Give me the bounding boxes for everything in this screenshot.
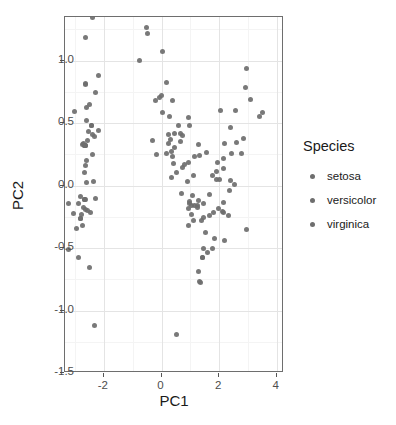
data-point xyxy=(248,97,253,102)
data-point xyxy=(179,191,184,196)
legend-label: virginica xyxy=(327,218,369,230)
data-point xyxy=(166,141,171,146)
grid-line xyxy=(75,17,76,371)
data-point xyxy=(91,179,96,184)
data-point xyxy=(196,269,201,274)
data-point xyxy=(211,210,216,215)
data-point xyxy=(153,98,158,103)
data-point xyxy=(221,166,226,171)
x-tick-label: 2 xyxy=(198,379,238,391)
y-tick-label: 0.0 xyxy=(58,178,74,190)
x-tick-label: -2 xyxy=(83,379,123,391)
data-point xyxy=(221,200,226,205)
data-point xyxy=(74,226,79,231)
data-point xyxy=(150,138,155,143)
data-point xyxy=(197,279,202,284)
y-axis-title: PC2 xyxy=(8,0,28,390)
data-point xyxy=(182,162,187,167)
data-point xyxy=(90,152,95,157)
data-point xyxy=(257,114,262,119)
legend-key xyxy=(303,198,321,203)
legend: Species setosaversicolorvirginica xyxy=(303,138,393,236)
data-point xyxy=(221,156,226,161)
data-point xyxy=(190,193,195,198)
data-point xyxy=(214,169,219,174)
data-point xyxy=(78,216,83,221)
data-point xyxy=(201,201,206,206)
data-point xyxy=(178,139,183,144)
y-tick-label: -1.0 xyxy=(54,303,74,315)
data-point xyxy=(229,151,234,156)
data-point xyxy=(84,158,89,163)
data-point xyxy=(174,170,179,175)
data-point xyxy=(83,35,88,40)
data-point xyxy=(167,114,172,119)
data-point xyxy=(145,31,150,36)
legend-dot-icon xyxy=(310,222,315,227)
legend-dot-icon xyxy=(310,174,315,179)
x-tick-label: 0 xyxy=(141,379,181,391)
plot-panel xyxy=(64,16,283,372)
data-point xyxy=(82,170,87,175)
data-point xyxy=(222,141,227,146)
data-point xyxy=(169,175,174,180)
data-point xyxy=(72,109,77,114)
grid-line xyxy=(104,17,105,371)
grid-line xyxy=(65,279,282,280)
data-point xyxy=(87,265,92,270)
legend-item-setosa: setosa xyxy=(303,164,393,188)
data-point xyxy=(252,16,257,17)
legend-label: setosa xyxy=(327,170,361,182)
data-point xyxy=(233,108,238,113)
data-point xyxy=(199,218,204,223)
y-tick-label: 1.0 xyxy=(58,53,74,65)
data-point xyxy=(196,142,201,147)
data-point xyxy=(76,201,81,206)
data-point xyxy=(180,133,185,138)
data-point xyxy=(204,150,209,155)
data-point xyxy=(217,177,222,182)
grid-line xyxy=(162,17,163,371)
data-point xyxy=(205,250,210,255)
data-point xyxy=(172,145,177,150)
x-tick-mark xyxy=(103,373,104,377)
y-tick-label: -1.5 xyxy=(54,365,74,377)
grid-line xyxy=(65,217,282,218)
data-point xyxy=(170,98,175,103)
data-point xyxy=(80,223,85,228)
legend-item-versicolor: versicolor xyxy=(303,188,393,212)
data-point xyxy=(85,208,90,213)
data-point xyxy=(200,255,205,260)
data-point xyxy=(207,192,212,197)
data-point xyxy=(164,80,169,85)
data-point xyxy=(239,151,244,156)
data-point xyxy=(90,16,95,20)
x-tick-mark xyxy=(218,373,219,377)
legend-key xyxy=(303,222,321,227)
data-point xyxy=(83,163,88,168)
data-point xyxy=(227,188,232,193)
data-point xyxy=(174,332,179,337)
data-point xyxy=(197,153,202,158)
data-point xyxy=(172,131,177,136)
data-point xyxy=(89,123,94,128)
grid-line xyxy=(219,17,220,371)
grid-line xyxy=(277,17,278,371)
grid-line xyxy=(133,17,134,371)
grid-line xyxy=(65,311,282,312)
data-point xyxy=(187,123,192,128)
legend-title: Species xyxy=(303,138,393,154)
data-point xyxy=(170,154,175,159)
data-point xyxy=(96,128,101,133)
data-point xyxy=(171,161,176,166)
data-point xyxy=(164,151,169,156)
x-tick-label: 4 xyxy=(256,379,296,391)
data-point xyxy=(83,82,88,87)
data-point xyxy=(241,136,246,141)
y-tick-label: 0.5 xyxy=(58,115,74,127)
data-point xyxy=(186,223,191,228)
data-point xyxy=(203,230,208,235)
data-point xyxy=(93,90,98,95)
x-tick-mark xyxy=(276,373,277,377)
y-axis-title-text: PC2 xyxy=(10,180,27,209)
